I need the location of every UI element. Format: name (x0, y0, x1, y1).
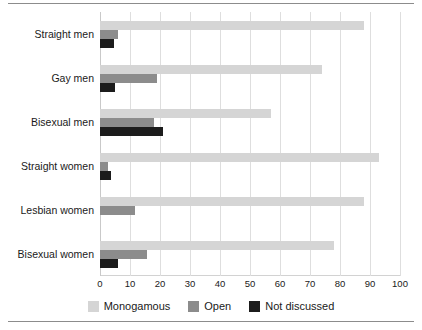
bar-row (100, 197, 400, 206)
bar-group (100, 232, 400, 276)
bar-row (100, 65, 400, 74)
bar-monogamous (100, 109, 271, 118)
category-label: Bisexual women (0, 248, 94, 260)
legend-swatch-icon (188, 301, 199, 312)
category-label: Lesbian women (0, 204, 94, 216)
bar-not-discussed (100, 171, 111, 180)
bar-row (100, 206, 400, 215)
bar-open (100, 206, 135, 215)
plot-area (100, 12, 400, 276)
x-tick-label-30: 30 (185, 278, 196, 289)
legend-label: Monogamous (104, 300, 171, 312)
bar-group (100, 56, 400, 100)
bar-row (100, 109, 400, 118)
bar-open (100, 162, 108, 171)
bar-open (100, 250, 147, 259)
bar-row (100, 215, 400, 224)
bar-group (100, 12, 400, 56)
legend-item[interactable]: Open (188, 300, 231, 312)
bar-not-discussed (100, 83, 115, 92)
top-divider-rule (8, 3, 414, 4)
legend-item[interactable]: Monogamous (88, 300, 171, 312)
x-tick-label-70: 70 (305, 278, 316, 289)
x-tick-label-50: 50 (245, 278, 256, 289)
chart-legend: MonogamousOpenNot discussed (0, 300, 422, 312)
category-label: Gay men (0, 72, 94, 84)
bar-row (100, 21, 400, 30)
bar-monogamous (100, 21, 364, 30)
bar-row (100, 30, 400, 39)
bar-row (100, 241, 400, 250)
category-label: Straight men (0, 28, 94, 40)
x-tick-label-40: 40 (215, 278, 226, 289)
bar-row (100, 39, 400, 48)
bar-row (100, 171, 400, 180)
bar-row (100, 259, 400, 268)
x-tick-label-80: 80 (335, 278, 346, 289)
x-tick-label-100: 100 (392, 278, 408, 289)
bar-row (100, 118, 400, 127)
bar-monogamous (100, 65, 322, 74)
bar-not-discussed (100, 127, 163, 136)
x-tick-label-0: 0 (97, 278, 102, 289)
x-axis-tick-labels: 0102030405060708090100 (100, 278, 400, 294)
bar-open (100, 30, 118, 39)
bar-chart-figure: Straight menGay menBisexual menStraight … (0, 0, 422, 330)
bar-row (100, 127, 400, 136)
legend-swatch-icon (88, 301, 99, 312)
legend-item[interactable]: Not discussed (249, 300, 334, 312)
bar-open (100, 74, 157, 83)
gridline-100 (400, 12, 401, 276)
bottom-divider-rule (8, 321, 414, 322)
bar-not-discussed (100, 39, 114, 48)
bar-monogamous (100, 197, 364, 206)
legend-label: Open (204, 300, 231, 312)
bar-group (100, 100, 400, 144)
bar-row (100, 83, 400, 92)
bar-monogamous (100, 241, 334, 250)
x-tick-label-10: 10 (125, 278, 136, 289)
bar-group (100, 188, 400, 232)
category-label: Bisexual men (0, 116, 94, 128)
legend-label: Not discussed (265, 300, 334, 312)
x-tick-label-60: 60 (275, 278, 286, 289)
x-tick-label-20: 20 (155, 278, 166, 289)
bar-row (100, 153, 400, 162)
category-axis-labels: Straight menGay menBisexual menStraight … (0, 12, 94, 276)
bar-row (100, 74, 400, 83)
x-tick-label-90: 90 (365, 278, 376, 289)
legend-swatch-icon (249, 301, 260, 312)
category-label: Straight women (0, 160, 94, 172)
bar-open (100, 118, 154, 127)
bar-group (100, 144, 400, 188)
bar-not-discussed (100, 259, 118, 268)
bar-row (100, 162, 400, 171)
bar-row (100, 250, 400, 259)
bar-monogamous (100, 153, 379, 162)
